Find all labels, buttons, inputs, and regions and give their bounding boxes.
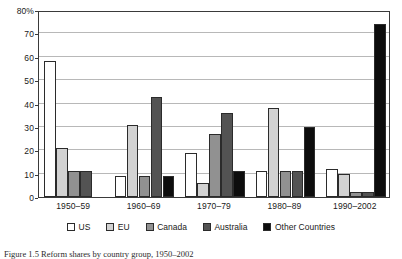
bar [256, 171, 268, 197]
legend-swatch-icon [203, 223, 211, 231]
x-axis-tick-label: 1990–2002 [333, 201, 376, 211]
bar [115, 176, 127, 197]
bar [280, 171, 292, 197]
y-axis: 80%706050403020100 [0, 11, 34, 198]
legend-label: Australia [214, 222, 247, 232]
x-axis-tick-label: 1980–89 [267, 201, 301, 211]
bar [151, 97, 163, 198]
figure-caption: Figure 1.5 Reform shares by country grou… [4, 249, 398, 259]
legend-label: US [79, 222, 91, 232]
y-axis-tick-label: 30 [24, 123, 34, 132]
y-axis-tick-label: 10 [24, 170, 34, 179]
bar [44, 61, 56, 197]
bar-group [39, 12, 109, 197]
legend-swatch-icon [146, 223, 154, 231]
bar [362, 192, 374, 197]
chart-legend: USEUCanadaAustraliaOther Countries [0, 222, 402, 232]
legend-item: EU [106, 222, 129, 232]
x-axis-tick-label: 1970–79 [197, 201, 231, 211]
y-axis-tick [35, 198, 38, 199]
bar-series-container [39, 12, 389, 197]
y-axis-tick-label: 20 [24, 147, 34, 156]
legend-label: EU [118, 222, 130, 232]
bar [338, 174, 350, 197]
bar-group [180, 12, 250, 197]
legend-item: Australia [203, 222, 248, 232]
bar-group [109, 12, 179, 197]
y-axis-tick-label: 70 [24, 30, 34, 39]
x-axis-tick-label: 1960–69 [127, 201, 161, 211]
bar [127, 125, 139, 197]
bar [139, 176, 151, 197]
legend-item: Canada [146, 222, 187, 232]
bar [68, 171, 80, 197]
x-axis: 1950–591960–691970–791980–891990–2002 [38, 201, 390, 213]
bar [185, 153, 197, 197]
bar [80, 171, 92, 197]
x-axis-tick-label: 1950–59 [56, 201, 90, 211]
bar [292, 171, 304, 197]
bar [350, 192, 362, 197]
bar-chart: 80%706050403020100 1950–591960–691970–79… [0, 0, 402, 214]
plot-area [38, 11, 390, 198]
y-axis-tick-label: 40 [24, 100, 34, 109]
y-axis-tick-label: 80% [17, 7, 34, 16]
legend-swatch-icon [263, 223, 271, 231]
legend-label: Canada [157, 222, 187, 232]
bar [233, 171, 245, 197]
legend-item: Other Countries [263, 222, 335, 232]
bar-group [321, 12, 391, 197]
legend-swatch-icon [67, 223, 75, 231]
legend-swatch-icon [106, 223, 114, 231]
bar [268, 108, 280, 197]
bar-group [250, 12, 320, 197]
legend-label: Other Countries [275, 222, 335, 232]
bar [209, 134, 221, 197]
bar [221, 113, 233, 197]
bar [374, 24, 386, 197]
legend-item: US [67, 222, 90, 232]
y-axis-tick-label: 0 [29, 194, 34, 203]
bar [197, 183, 209, 197]
bar [304, 127, 316, 197]
y-axis-tick-label: 50 [24, 77, 34, 86]
y-axis-tick-label: 60 [24, 53, 34, 62]
bar [326, 169, 338, 197]
bar [56, 148, 68, 197]
bar [163, 176, 175, 197]
